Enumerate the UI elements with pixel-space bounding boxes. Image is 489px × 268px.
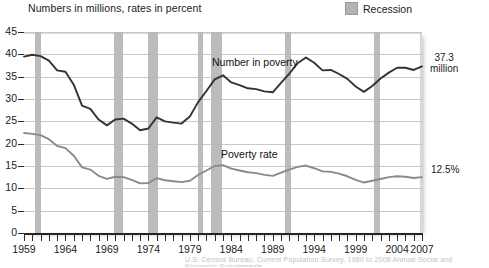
x-tick-mark [381, 235, 382, 241]
x-tick-mark [90, 235, 91, 241]
x-tick-mark [148, 235, 149, 241]
x-tick-mark [107, 235, 108, 241]
x-tick-mark [140, 235, 141, 241]
x-tick-mark [306, 235, 307, 241]
x-tick-mark [397, 235, 398, 241]
series-label-number-in-poverty: Number in poverty [212, 56, 298, 68]
y-tick-label: 20 [0, 137, 17, 149]
y-tick-label: 30 [0, 92, 17, 104]
y-tick-label: 15 [0, 159, 17, 171]
x-tick-label: 1994 [303, 243, 326, 255]
x-tick-label: 1959 [12, 243, 35, 255]
x-tick-mark [298, 235, 299, 241]
x-tick-mark [331, 235, 332, 241]
x-tick-label: 1984 [220, 243, 243, 255]
x-tick-mark [264, 235, 265, 241]
annotation-number-value-line2: million [430, 63, 458, 74]
x-tick-label: 1979 [178, 243, 201, 255]
x-tick-mark [256, 235, 257, 241]
annotation-number-value: 37.3 million [430, 52, 458, 74]
x-tick-mark [289, 235, 290, 241]
x-tick-mark [339, 235, 340, 241]
x-tick-mark [248, 235, 249, 241]
x-tick-mark [41, 235, 42, 241]
x-tick-mark [198, 235, 199, 241]
x-tick-mark [24, 235, 25, 241]
annotation-rate-value: 12.5% [431, 164, 459, 175]
series-label-poverty-rate: Poverty rate [221, 148, 278, 160]
x-tick-mark [231, 235, 232, 241]
y-tick-mark [18, 233, 24, 234]
annotation-number-value-line1: 37.3 [430, 52, 458, 63]
x-tick-mark [389, 235, 390, 241]
y-tick-label: 25 [0, 114, 17, 126]
x-tick-mark [314, 235, 315, 241]
x-tick-mark [115, 235, 116, 241]
x-tick-label: 1989 [261, 243, 284, 255]
x-tick-mark [57, 235, 58, 241]
x-tick-mark [356, 235, 357, 241]
x-tick-mark [414, 235, 415, 241]
legend-label-recession: Recession [363, 3, 412, 15]
x-tick-mark [165, 235, 166, 241]
x-tick-mark [281, 235, 282, 241]
x-tick-mark [215, 235, 216, 241]
x-tick-mark [32, 235, 33, 241]
x-tick-label: 1964 [54, 243, 77, 255]
x-tick-mark [240, 235, 241, 241]
recession-swatch-icon [345, 2, 358, 15]
x-tick-mark [74, 235, 75, 241]
chart-legend: Recession [345, 2, 412, 15]
x-tick-label: 1969 [95, 243, 118, 255]
source-note: U.S. Census Bureau, Current Population S… [185, 256, 485, 267]
x-tick-mark [422, 235, 423, 241]
x-tick-label: 2004 [385, 243, 408, 255]
x-tick-mark [347, 235, 348, 241]
x-tick-mark [273, 235, 274, 241]
chart-subtitle: Numbers in millions, rates in percent [28, 2, 202, 14]
x-tick-mark [49, 235, 50, 241]
y-tick-label: 35 [0, 70, 17, 82]
x-tick-mark [206, 235, 207, 241]
y-tick-label: 10 [0, 181, 17, 193]
poverty-chart-figure: Numbers in millions, rates in percent Re… [0, 0, 489, 268]
x-tick-mark [132, 235, 133, 241]
x-tick-mark [124, 235, 125, 241]
x-tick-mark [99, 235, 100, 241]
x-tick-label: 1999 [344, 243, 367, 255]
x-tick-mark [173, 235, 174, 241]
x-tick-label: 1974 [137, 243, 160, 255]
x-tick-mark [323, 235, 324, 241]
x-tick-mark [82, 235, 83, 241]
x-tick-mark [65, 235, 66, 241]
y-tick-label: 0 [0, 226, 17, 238]
x-tick-mark [182, 235, 183, 241]
x-tick-mark [405, 235, 406, 241]
x-tick-mark [364, 235, 365, 241]
x-tick-mark [157, 235, 158, 241]
x-tick-mark [190, 235, 191, 241]
x-tick-label: 2007 [410, 243, 433, 255]
y-tick-label: 40 [0, 47, 17, 59]
y-tick-label: 5 [0, 204, 17, 216]
x-tick-mark [372, 235, 373, 241]
y-tick-label: 45 [0, 25, 17, 37]
x-tick-mark [223, 235, 224, 241]
